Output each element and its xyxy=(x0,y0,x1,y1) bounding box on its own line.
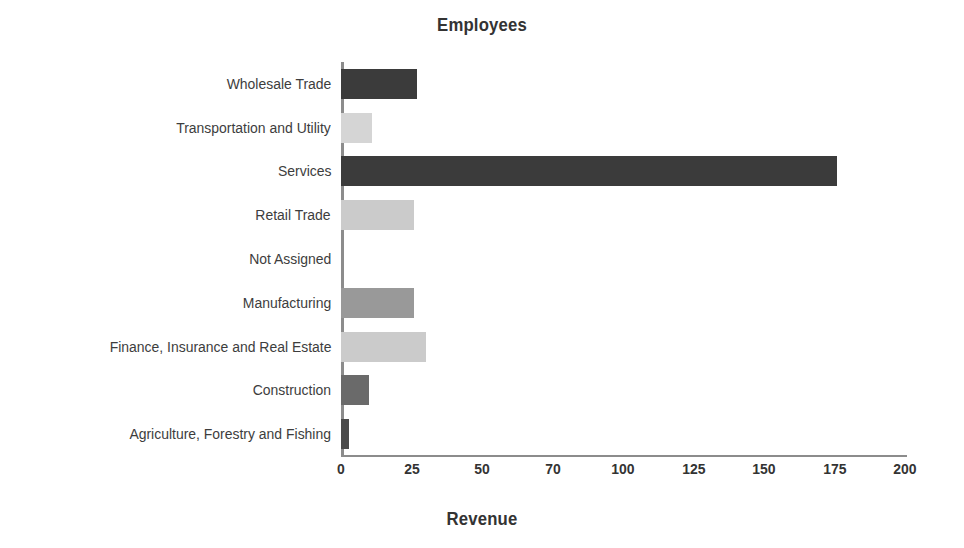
bar xyxy=(341,332,426,362)
x-axis-tick-label: 125 xyxy=(682,460,705,478)
x-axis-tick-label: 175 xyxy=(823,460,846,478)
bar-row xyxy=(341,368,905,412)
x-axis-tick-label: 25 xyxy=(404,460,420,478)
y-axis-tick-label: Finance, Insurance and Real Estate xyxy=(0,339,331,355)
chart-title: Employees xyxy=(58,14,906,36)
x-axis-title: Revenue xyxy=(58,508,906,530)
bar xyxy=(341,156,837,186)
y-axis-tick-label: Not Assigned xyxy=(0,251,331,267)
y-axis-tick-label: Services xyxy=(0,163,331,179)
y-axis-tick-label: Transportation and Utility xyxy=(0,120,331,136)
bar-row xyxy=(341,62,905,106)
y-axis-tick-label: Retail Trade xyxy=(0,207,331,223)
bar-row xyxy=(341,150,905,194)
x-axis-tick-label: 100 xyxy=(611,460,634,478)
x-axis-tick-label: 200 xyxy=(893,460,916,478)
bar-row xyxy=(341,281,905,325)
y-axis-tick-label: Wholesale Trade xyxy=(0,76,331,92)
x-axis-tick-label: 70 xyxy=(545,460,561,478)
bar-row xyxy=(341,193,905,237)
x-axis-tick-label: 50 xyxy=(474,460,490,478)
bar xyxy=(341,419,349,449)
bar xyxy=(341,288,414,318)
bar xyxy=(341,375,369,405)
bar xyxy=(341,113,372,143)
bar-row xyxy=(341,237,905,281)
bar xyxy=(341,69,417,99)
chart-figure: Employees Wholesale TradeTransportation … xyxy=(0,0,964,548)
bar-row xyxy=(341,106,905,150)
plot-area xyxy=(341,62,905,456)
x-axis-tick-label: 150 xyxy=(752,460,775,478)
y-axis-tick-label: Construction xyxy=(0,382,331,398)
bar-row xyxy=(341,412,905,456)
bar xyxy=(341,200,414,230)
bar-row xyxy=(341,325,905,369)
y-axis-tick-label: Manufacturing xyxy=(0,295,331,311)
y-axis-tick-label: Agriculture, Forestry and Fishing xyxy=(0,426,331,442)
x-axis-tick-label: 0 xyxy=(337,460,345,478)
